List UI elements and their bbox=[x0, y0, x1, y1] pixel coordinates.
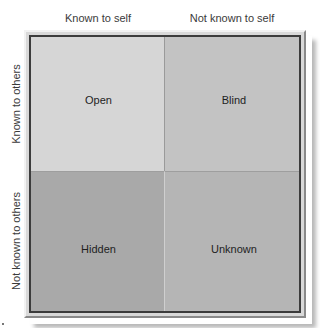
quadrant-blind: Blind bbox=[165, 37, 299, 171]
quadrant-open: Open bbox=[31, 37, 164, 171]
column-header-known-to-self: Known to self bbox=[31, 12, 165, 24]
quadrant-label-hidden: Hidden bbox=[81, 243, 116, 255]
column-header-not-known-to-self: Not known to self bbox=[165, 12, 299, 24]
row-header-known-to-others: Known to others bbox=[10, 34, 22, 174]
johari-window-inner-border: Open Blind Hidden Unknown bbox=[29, 35, 301, 313]
johari-window-frame: Open Blind Hidden Unknown bbox=[24, 30, 306, 318]
quadrant-grid: Open Blind Hidden Unknown bbox=[31, 37, 299, 311]
row-header-not-known-to-others: Not known to others bbox=[10, 171, 22, 311]
quadrant-label-open: Open bbox=[85, 94, 112, 106]
quadrant-hidden: Hidden bbox=[31, 172, 164, 311]
quadrant-label-unknown: Unknown bbox=[211, 243, 257, 255]
quadrant-unknown: Unknown bbox=[165, 172, 299, 311]
quadrant-label-blind: Blind bbox=[222, 94, 246, 106]
corner-mark bbox=[2, 323, 4, 325]
